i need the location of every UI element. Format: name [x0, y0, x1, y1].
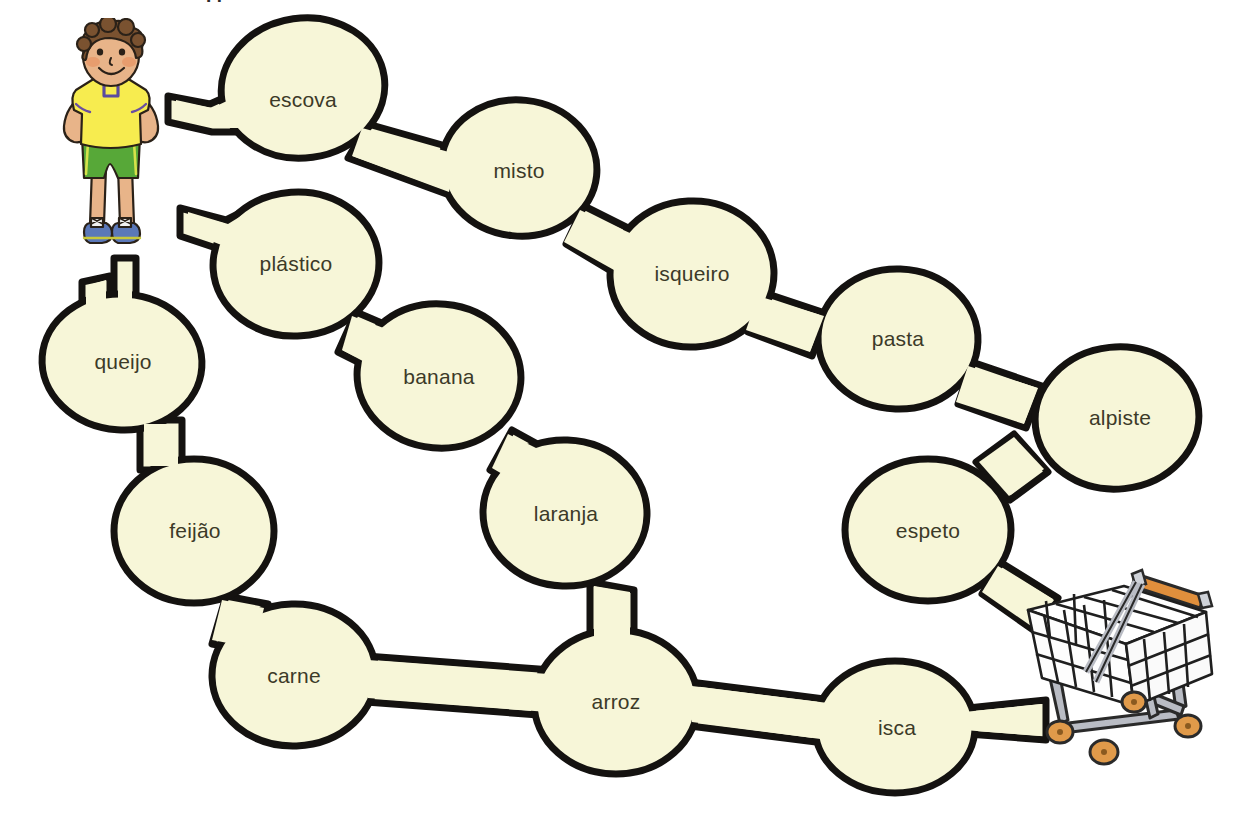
boy-left-shoe: [84, 218, 112, 243]
bubble-isca: [815, 661, 975, 793]
bubble-queijo: [37, 289, 206, 436]
maze-puzzle-scene: g .bub { fill: #f7f6d8; stroke: #141210;…: [0, 0, 1237, 816]
bubble-pasta: [816, 266, 981, 411]
shopping-cart: [1016, 556, 1236, 771]
bubble-alpiste: [1028, 339, 1206, 497]
boy-left-cheek: [86, 57, 100, 67]
boy-left-eye: [97, 48, 103, 55]
boy-right-shoe: [112, 218, 140, 243]
boy-right-cheek: [122, 57, 136, 67]
boy-right-eye: [119, 48, 125, 55]
bubble-feijao: [114, 459, 274, 603]
bubble-espeto: [845, 459, 1011, 601]
bubble-arroz: [534, 630, 698, 774]
boy-character: [48, 18, 172, 258]
